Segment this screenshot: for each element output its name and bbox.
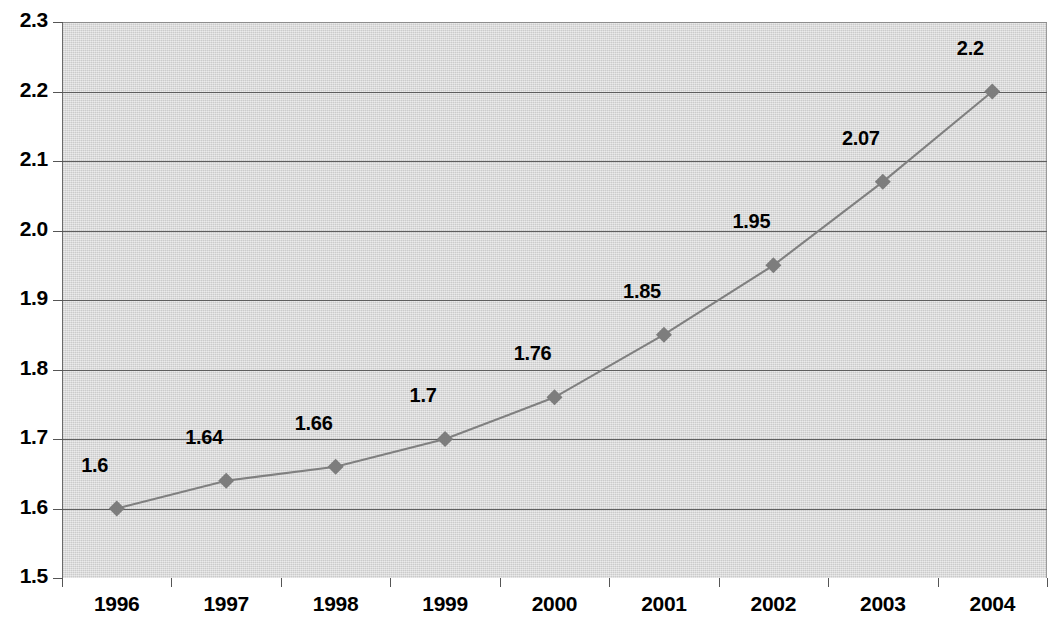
data-point-label: 1.85 bbox=[623, 280, 661, 303]
y-axis-tick-label: 2.1 bbox=[20, 147, 48, 171]
y-axis-tick-mark bbox=[53, 439, 63, 440]
x-axis-tick-mark bbox=[390, 578, 391, 587]
y-axis-tick-label: 1.5 bbox=[20, 564, 48, 588]
data-point-label: 1.6 bbox=[81, 454, 108, 477]
y-axis-tick-label: 1.6 bbox=[20, 495, 48, 519]
y-axis-tick-label: 1.8 bbox=[20, 356, 48, 380]
x-axis-tick-mark bbox=[281, 578, 282, 587]
data-point-label: 1.66 bbox=[295, 412, 333, 435]
y-axis-tick-mark bbox=[53, 300, 63, 301]
x-axis-tick-mark bbox=[171, 578, 172, 587]
y-axis-tick-label: 2.3 bbox=[20, 8, 48, 32]
data-point-label: 1.76 bbox=[514, 342, 552, 365]
y-axis-tick-label: 2.0 bbox=[20, 217, 48, 241]
x-axis-tick-label: 1998 bbox=[313, 592, 359, 616]
x-axis-tick-mark bbox=[62, 578, 63, 587]
gridline-2 bbox=[62, 231, 1047, 232]
data-point-label: 1.95 bbox=[733, 210, 771, 233]
data-point-label: 1.7 bbox=[410, 384, 437, 407]
x-axis-tick-mark bbox=[719, 578, 720, 587]
x-axis-tick-label: 2001 bbox=[641, 592, 687, 616]
gridline-1.6 bbox=[62, 509, 1047, 510]
y-axis-tick-mark bbox=[53, 22, 63, 23]
y-axis-tick-label: 1.9 bbox=[20, 286, 48, 310]
data-point-label: 2.2 bbox=[957, 37, 984, 60]
y-axis-tick-mark bbox=[53, 231, 63, 232]
y-axis-tick-label: 1.7 bbox=[20, 425, 48, 449]
x-axis-tick-mark bbox=[938, 578, 939, 587]
x-axis-tick-label: 1996 bbox=[94, 592, 140, 616]
gridline-1.8 bbox=[62, 370, 1047, 371]
data-point-label: 2.07 bbox=[842, 127, 880, 150]
gridline-2.3 bbox=[62, 22, 1047, 23]
x-axis-tick-label: 2000 bbox=[532, 592, 578, 616]
y-axis-tick-mark bbox=[53, 509, 63, 510]
y-axis-tick-mark bbox=[53, 92, 63, 93]
y-axis-tick-label: 2.2 bbox=[20, 78, 48, 102]
y-axis-tick-mark bbox=[53, 161, 63, 162]
y-axis-tick-mark bbox=[53, 370, 63, 371]
x-axis-tick-mark bbox=[1047, 578, 1048, 587]
x-axis-tick-label: 2003 bbox=[860, 592, 906, 616]
gridline-1.9 bbox=[62, 300, 1047, 301]
x-axis-tick-label: 1997 bbox=[203, 592, 249, 616]
line-chart: 1.51.61.71.81.92.02.12.22.3 199619971998… bbox=[0, 0, 1061, 634]
x-axis-tick-mark bbox=[609, 578, 610, 587]
x-axis-tick-label: 2002 bbox=[751, 592, 797, 616]
x-axis-tick-mark bbox=[500, 578, 501, 587]
x-axis-tick-label: 2004 bbox=[970, 592, 1016, 616]
gridline-2.1 bbox=[62, 161, 1047, 162]
gridline-2.2 bbox=[62, 92, 1047, 93]
x-axis-tick-mark bbox=[828, 578, 829, 587]
plot-area bbox=[62, 22, 1047, 578]
data-point-label: 1.64 bbox=[185, 426, 223, 449]
x-axis-tick-label: 1999 bbox=[422, 592, 468, 616]
